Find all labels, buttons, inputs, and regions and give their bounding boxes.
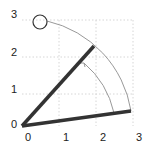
ray-lower — [22, 111, 131, 126]
svg-text:3: 3 — [136, 131, 142, 143]
x-tick-labels: 0 1 2 3 — [25, 131, 142, 143]
svg-text:2: 2 — [11, 46, 17, 58]
svg-text:0: 0 — [11, 118, 17, 130]
svg-text:2: 2 — [100, 131, 106, 143]
rotation-diagram: 3 2 1 0 0 1 2 3 — [0, 0, 145, 147]
svg-text:1: 1 — [63, 131, 69, 143]
ray-upper — [22, 46, 94, 126]
arrow-head-icon — [80, 63, 85, 67]
circle-marker — [33, 15, 47, 29]
svg-text:0: 0 — [25, 131, 31, 143]
inner-arc — [84, 63, 114, 113]
svg-text:3: 3 — [11, 8, 17, 20]
svg-text:1: 1 — [11, 83, 17, 95]
y-tick-labels: 3 2 1 0 — [11, 8, 17, 130]
outer-arc — [47, 21, 131, 111]
